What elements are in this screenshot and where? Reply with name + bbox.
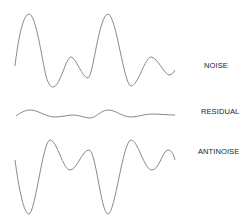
antinoise-waveform: [15, 140, 175, 214]
noise-waveform: [15, 14, 175, 87]
antinoise-label: ANTINOISE: [198, 147, 239, 156]
active-noise-cancellation-diagram: NOISE RESIDUAL ANTINOISE: [0, 0, 250, 224]
noise-label: NOISE: [204, 61, 228, 70]
residual-waveform: [16, 110, 175, 118]
residual-label: RESIDUAL: [201, 107, 239, 116]
